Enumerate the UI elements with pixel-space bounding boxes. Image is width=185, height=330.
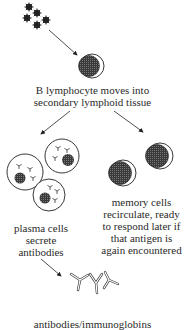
- memory-cells-icon: [109, 143, 174, 186]
- plasma-cells-label: plasma cells secrete antibodies: [5, 222, 77, 258]
- arrow-bcell-to-plasma: [41, 111, 70, 134]
- arrow-plasma-to-antibodies: [41, 259, 61, 276]
- label-line: memory cells: [98, 196, 185, 208]
- arrow-bcell-to-memory: [114, 111, 143, 132]
- label-line: recirculate, ready: [98, 208, 185, 220]
- label-line: antibodies/immunoglobins: [0, 318, 185, 330]
- memory-cells-label: memory cells recirculate, ready to respo…: [98, 196, 185, 256]
- antigen-cluster-icon: [23, 3, 51, 30]
- label-line: secondary lymphoid tissue: [0, 96, 185, 108]
- label-line: to respond later if: [98, 220, 185, 232]
- label-line: antibodies: [5, 246, 77, 258]
- label-line: that antigen is: [98, 232, 185, 244]
- plasma-cells-icon: [7, 139, 79, 211]
- arrow-antigen-to-bcell: [49, 30, 77, 55]
- label-line: plasma cells: [5, 222, 77, 234]
- antibodies-label: antibodies/immunoglobins: [0, 318, 185, 330]
- b-lymphocyte-icon: [79, 54, 105, 78]
- label-line: secrete: [5, 234, 77, 246]
- label-line: B lymphocyte moves into: [0, 84, 185, 96]
- label-line: again encountered: [98, 244, 185, 256]
- b-lymphocyte-label: B lymphocyte moves into secondary lympho…: [0, 84, 185, 108]
